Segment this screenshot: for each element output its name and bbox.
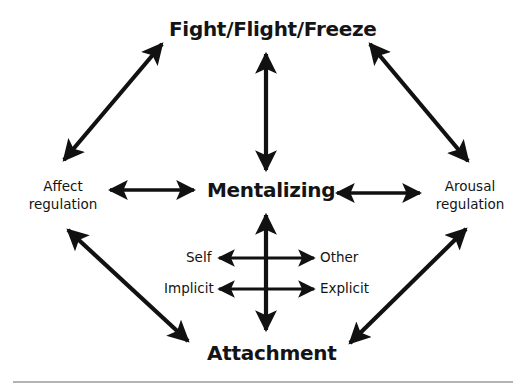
node-attachment: Attachment: [207, 341, 336, 365]
label-implicit: Implicit: [164, 280, 214, 296]
node-fight-flight-freeze: Fight/Flight/Freeze: [169, 17, 377, 41]
arousal-line2: regulation: [430, 195, 510, 213]
affect-line2: regulation: [25, 195, 101, 213]
label-other: Other: [320, 249, 358, 265]
node-affect-regulation: Affect regulation: [25, 177, 101, 213]
arrow-fff-arousal: [370, 44, 468, 161]
node-arousal-regulation: Arousal regulation: [430, 177, 510, 213]
affect-line1: Affect: [25, 177, 101, 195]
label-explicit: Explicit: [320, 280, 369, 296]
node-mentalizing: Mentalizing: [207, 178, 335, 202]
arrow-fff-affect: [64, 44, 162, 160]
label-self: Self: [186, 249, 211, 265]
arousal-line1: Arousal: [430, 177, 510, 195]
